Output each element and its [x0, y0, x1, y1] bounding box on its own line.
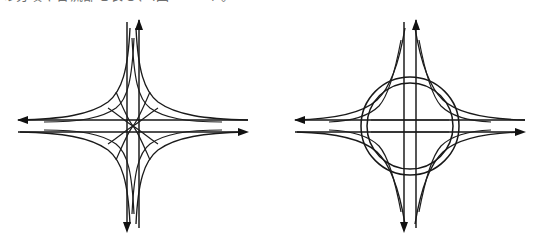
arrow-east-icon: [515, 128, 526, 136]
caption-strip: の分岐や合流部を表し、(図 2-3-1) 。: [0, 0, 535, 9]
arrow-south-icon: [123, 222, 131, 233]
caption-text: の分岐や合流部を表し、(図 2-3-1) 。: [2, 0, 235, 3]
turbine-interchange-diagram: [8, 12, 258, 240]
ramp-group-flares: [295, 28, 525, 224]
mainline-vertical: [404, 20, 416, 230]
arrow-north-icon: [135, 19, 143, 30]
arrow-west-icon: [294, 116, 305, 124]
ring-median-stubs: [371, 120, 449, 132]
central-crossover: [108, 92, 158, 160]
figure-page: の分岐や合流部を表し、(図 2-3-1) 。: [0, 0, 535, 240]
arrow-east-icon: [238, 128, 249, 136]
ramp-group-flares-inner: [329, 40, 491, 212]
roundabout-ring: [361, 77, 459, 175]
arrow-north-icon: [412, 19, 420, 30]
arrow-south-icon: [400, 222, 408, 233]
roundabout-interchange-diagram: [285, 12, 535, 240]
arrow-west-icon: [17, 116, 28, 124]
